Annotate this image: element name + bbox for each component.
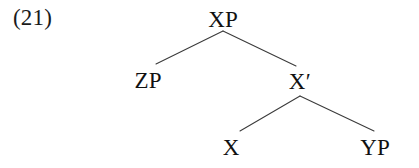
branch-line-xbar-yp [300,96,374,131]
tree-node-zp: ZP [135,68,162,93]
branch-line-xp-xbar [223,31,296,66]
tree-node-yp: YP [360,135,389,160]
tree-node-xp: XP [208,7,237,32]
tree-node-xbar: X′ [289,69,312,94]
tree-canvas: XPZPX′XYP [0,0,419,168]
branch-line-xp-zp [156,31,223,64]
tree-node-x-head: X [223,135,240,160]
branch-line-xbar-x [240,96,300,131]
tree-node-group: XPZPX′XYP [135,7,390,160]
branch-line-group [156,31,374,131]
syntax-tree-figure: (21) XPZPX′XYP [0,0,419,168]
